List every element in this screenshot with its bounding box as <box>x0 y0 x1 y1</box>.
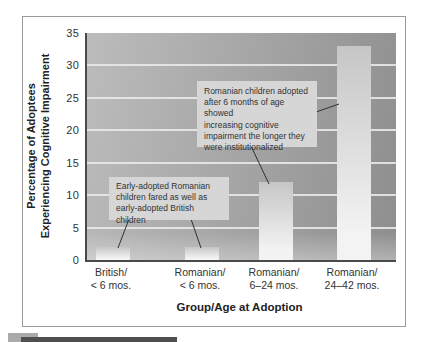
y-tick-label: 35 <box>51 27 79 39</box>
bar-romanian-24-42mos <box>337 46 371 260</box>
annotation-late-line: increasing cognitive <box>204 120 310 131</box>
y-axis-title-line2: Experiencing Cognitive Impairment <box>38 6 52 286</box>
y-tick-label: 10 <box>51 189 79 201</box>
caption-tab-bar <box>21 337 177 342</box>
y-tick-label: 5 <box>51 222 79 234</box>
annotation-early-line: early-adopted British children <box>116 203 222 225</box>
y-axis-title: Percentage of Adoptees Experiencing Cogn… <box>24 6 54 286</box>
annotation-late-line: impairment the longer they <box>204 131 310 142</box>
y-tick-label: 15 <box>51 157 79 169</box>
x-label-line: British/ <box>68 266 154 279</box>
figure-box: Percentage of Adoptees Experiencing Cogn… <box>22 16 406 327</box>
x-label-romanian-6-24mos: Romanian/ 6–24 mos. <box>231 266 317 292</box>
x-label-line: Romanian/ <box>231 266 317 279</box>
annotation-late-line: after 6 months of age showed <box>204 97 310 119</box>
bar-romanian-under-6mos <box>185 247 219 260</box>
y-axis-title-line1: Percentage of Adoptees <box>24 6 38 286</box>
x-label-line: 6–24 mos. <box>231 279 317 292</box>
y-tick-label: 20 <box>51 124 79 136</box>
annotation-early-line: Early-adopted Romanian <box>116 181 222 192</box>
annotation-late-adoption: Romanian children adopted after 6 months… <box>197 81 317 147</box>
annotation-early-line: children fared as well as <box>116 192 222 203</box>
x-label-british-under-6mos: British/ < 6 mos. <box>68 266 154 292</box>
x-label-romanian-24-42mos: Romanian/ 24–42 mos. <box>309 266 395 292</box>
y-tick-label: 0 <box>51 254 79 266</box>
x-label-line: < 6 mos. <box>68 279 154 292</box>
bar-romanian-6-24mos <box>259 182 293 260</box>
bar-british-under-6mos <box>96 247 130 260</box>
x-axis-title: Group/Age at Adoption <box>139 301 340 313</box>
y-tick-label: 30 <box>51 59 79 71</box>
annotation-late-line: Romanian children adopted <box>204 86 310 97</box>
annotation-early-adoption: Early-adopted Romanian children fared as… <box>109 177 229 220</box>
x-label-line: Romanian/ <box>309 266 395 279</box>
y-tick-label: 25 <box>51 92 79 104</box>
annotation-late-line: were institutionalized <box>204 142 310 153</box>
x-label-line: 24–42 mos. <box>309 279 395 292</box>
